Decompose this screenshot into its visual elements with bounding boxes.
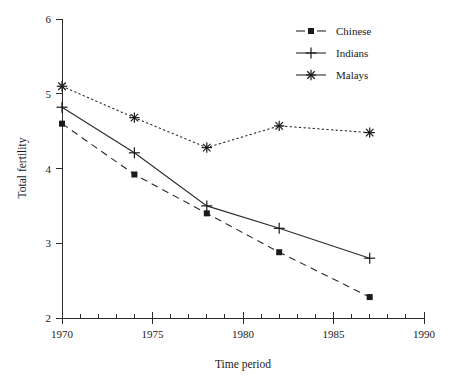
series-chinese [59, 121, 373, 300]
series-malays [57, 81, 375, 153]
y-tick-label: 4 [46, 163, 52, 175]
x-tick-label: 1970 [51, 328, 74, 340]
y-tick-label: 6 [46, 13, 52, 25]
fertility-line-chart: 23456 19701975198019851990 ChineseIndian… [0, 0, 455, 382]
legend-item-chinese[interactable]: Chinese [296, 25, 372, 37]
x-axis-group: 19701975198019851990 [51, 312, 436, 340]
datapoint-plus-marker [201, 200, 212, 211]
datapoint-plus-marker [129, 147, 140, 158]
x-tick-label: 1985 [323, 328, 346, 340]
datapoint-star-marker [274, 121, 284, 131]
datapoint-star-marker [202, 142, 212, 152]
legend-label-chinese: Chinese [336, 25, 372, 37]
legend-item-indians[interactable]: Indians [296, 47, 368, 59]
y-axis-group: 23456 [46, 13, 63, 324]
legend-star-marker [306, 70, 316, 80]
chart-canvas: 23456 19701975198019851990 ChineseIndian… [0, 0, 455, 382]
legend-plus-marker [306, 48, 317, 59]
series-indians [57, 102, 376, 264]
x-tick-label: 1975 [142, 328, 165, 340]
series-line-indians [62, 107, 370, 258]
x-axis-tick-labels: 19701975198019851990 [51, 328, 436, 340]
y-axis-title: Total fertility [16, 137, 29, 198]
datapoint-star-marker [129, 112, 139, 122]
y-tick-label: 5 [46, 88, 52, 100]
chart-legend: ChineseIndiansMalays [296, 25, 372, 81]
legend-item-malays[interactable]: Malays [296, 69, 368, 81]
datapoint-plus-marker [364, 253, 375, 264]
x-tick-label: 1980 [232, 328, 255, 340]
datapoint-plus-marker [274, 223, 285, 234]
y-tick-label: 3 [46, 237, 52, 249]
legend-label-malays: Malays [336, 69, 368, 81]
datapoint-star-marker [57, 81, 67, 91]
y-axis-tick-labels: 23456 [46, 13, 52, 324]
datapoint-square-marker [367, 294, 373, 300]
y-tick-label: 2 [46, 312, 52, 324]
datapoint-square-marker [276, 249, 282, 255]
datapoint-square-marker [131, 171, 137, 177]
legend-label-indians: Indians [336, 47, 368, 59]
series-line-malays [62, 86, 370, 147]
series-layer [57, 81, 376, 300]
datapoint-square-marker [59, 121, 65, 127]
x-tick-label: 1990 [413, 328, 436, 340]
legend-square-marker [308, 28, 314, 34]
x-axis-title: Time period [215, 358, 271, 371]
series-line-chinese [62, 124, 370, 297]
datapoint-star-marker [365, 127, 375, 137]
y-axis-ticks [56, 19, 62, 318]
datapoint-plus-marker [57, 102, 68, 113]
